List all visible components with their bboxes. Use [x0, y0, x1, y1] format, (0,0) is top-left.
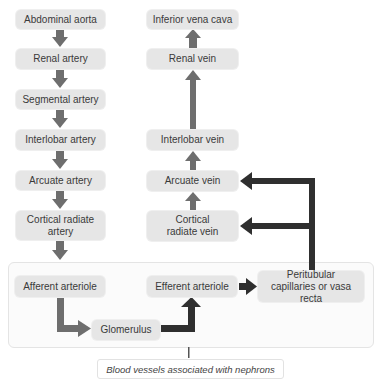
box-efferent-arteriole: Efferent arteriole [147, 276, 237, 297]
box-arcuate-vein: Arcuate vein [147, 171, 238, 191]
box-cortical-radiate-vein: Cortical radiate vein [147, 211, 238, 241]
arrow-up-icon [181, 297, 201, 307]
arrow-down-icon [52, 151, 68, 169]
arrow-left-icon [240, 172, 252, 190]
arrow-down-icon [52, 30, 68, 47]
box-renal-artery: Renal artery [16, 49, 105, 69]
afferent-arrow [57, 298, 91, 337]
efferent-arrow [160, 297, 201, 332]
box-segmental-artery: Segmental artery [16, 90, 105, 109]
box-arcuate-artery: Arcuate artery [16, 171, 105, 190]
box-abdominal-aorta: Abdominal aorta [16, 10, 105, 29]
box-afferent-arteriole: Afferent arteriole [15, 276, 105, 297]
arrow-left-icon [240, 217, 252, 235]
arrow-up-icon [185, 70, 201, 129]
return-arrows [240, 172, 315, 272]
to-peritubular-arrow [239, 278, 257, 295]
figure-caption: Blood vessels associated with nephrons [97, 359, 284, 379]
box-interlobar-artery: Interlobar artery [16, 130, 105, 150]
arrow-down-icon [52, 110, 68, 128]
arrow-right-icon [246, 278, 257, 295]
arrow-up-icon [185, 192, 201, 210]
arrow-down-icon [52, 70, 68, 88]
arrow-right-icon [78, 320, 91, 337]
box-glomerulus: Glomerulus [92, 320, 160, 340]
box-interlobar-vein: Interlobar vein [147, 130, 238, 150]
box-peritubular-capillaries: Peritubular capillaries or vasa recta [258, 271, 364, 302]
caption-leader-line [188, 347, 190, 358]
box-inferior-vena-cava: Inferior vena cava [147, 10, 238, 29]
box-cortical-radiate-artery: Cortical radiate artery [16, 211, 105, 240]
arrow-down-icon [52, 241, 68, 260]
box-renal-vein: Renal vein [147, 49, 238, 69]
arrow-up-icon [185, 29, 201, 48]
arrow-up-icon [185, 151, 201, 170]
arrow-down-icon [52, 191, 68, 209]
